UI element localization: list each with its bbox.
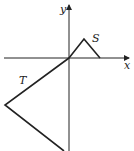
y-axis-label: y [60,4,66,15]
shape-s-label: S [92,33,100,44]
shape-t [5,58,69,151]
shape-t-label: T [19,75,26,86]
x-axis-label: x [124,60,130,71]
